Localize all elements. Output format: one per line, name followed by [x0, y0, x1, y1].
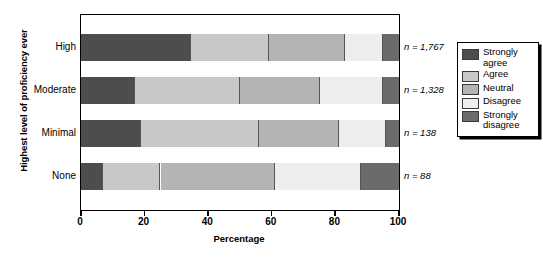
sample-size-annotations: n = 1,767n = 1,328n = 138n = 88	[404, 14, 458, 209]
x-axis-tick-label: 100	[390, 216, 407, 227]
bar-segment	[383, 34, 399, 61]
bar-segment	[141, 120, 259, 147]
bar-segment	[269, 34, 345, 61]
legend-item: Neutral	[462, 83, 535, 96]
legend-label: Neutral	[483, 83, 514, 94]
x-axis-tick-label: 20	[138, 216, 149, 227]
bar-segment	[81, 34, 191, 61]
bar-segment	[191, 34, 269, 61]
legend-label: Disagree	[483, 96, 521, 107]
sample-size-label: n = 88	[404, 170, 431, 181]
legend-item: Agree	[462, 69, 535, 82]
x-axis-tick-label: 60	[265, 216, 276, 227]
bar-segment	[103, 163, 160, 190]
y-axis-tick-label-none: None	[20, 170, 76, 181]
bar-segment	[81, 77, 135, 104]
sample-size-label: n = 1,328	[404, 84, 444, 95]
bar-segment	[386, 120, 399, 147]
bar-row	[81, 163, 399, 190]
sample-size-label: n = 138	[404, 127, 436, 138]
bar-segment	[81, 163, 103, 190]
bar-segment	[383, 77, 399, 104]
y-axis-tick-labels: HighModerateMinimalNone	[20, 14, 76, 209]
legend-item: Strongly disagree	[462, 110, 535, 131]
x-axis-tick-label: 0	[77, 216, 83, 227]
legend-swatch-icon	[462, 98, 479, 109]
sample-size-label: n = 1,767	[404, 41, 444, 52]
legend-item: Disagree	[462, 96, 535, 109]
y-axis-tick-label-moderate: Moderate	[20, 84, 76, 95]
bar-row	[81, 77, 399, 104]
x-axis-tick-labels: 020406080100	[80, 216, 402, 232]
x-axis-title: Percentage	[80, 233, 398, 244]
bar-segment	[135, 77, 240, 104]
legend-swatch-icon	[462, 84, 479, 95]
bar-segment	[320, 77, 384, 104]
stacked-bar-chart: Highest level of proficiency ever HighMo…	[0, 0, 543, 258]
bar-segment	[339, 120, 387, 147]
bar-segment	[275, 163, 361, 190]
legend-item: Strongly agree	[462, 47, 535, 68]
legend-label: Strongly agree	[483, 47, 518, 68]
y-axis-tick-label-minimal: Minimal	[20, 127, 76, 138]
bar-segment	[240, 77, 320, 104]
bar-row	[81, 120, 399, 147]
plot-area	[80, 14, 400, 211]
x-axis-tick-label: 80	[329, 216, 340, 227]
chart-legend: Strongly agreeAgreeNeutralDisagreeStrong…	[457, 42, 539, 137]
legend-label: Strongly disagree	[483, 110, 519, 131]
bar-segment	[259, 120, 339, 147]
legend-swatch-icon	[462, 111, 479, 122]
bar-row	[81, 34, 399, 61]
y-axis-tick-label-high: High	[20, 41, 76, 52]
legend-label: Agree	[483, 69, 508, 80]
bar-segment	[345, 34, 383, 61]
legend-swatch-icon	[462, 49, 479, 60]
legend-swatch-icon	[462, 71, 479, 82]
bar-segment	[81, 120, 141, 147]
x-axis-tick-label: 40	[202, 216, 213, 227]
bar-segment	[361, 163, 399, 190]
bar-segment	[161, 163, 275, 190]
